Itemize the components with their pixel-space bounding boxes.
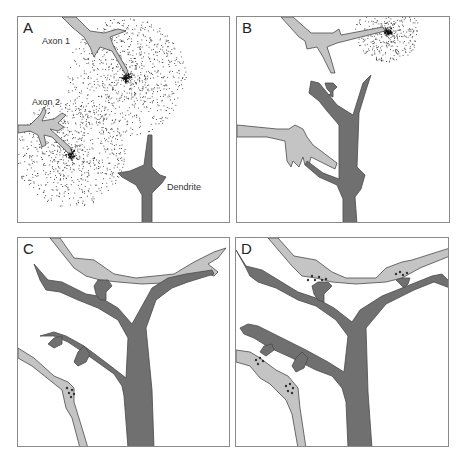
label-axon-1: Axon 1 — [42, 36, 70, 46]
panel-d-drawing — [236, 238, 449, 447]
panel-label-b: B — [242, 19, 252, 36]
label-axon-2: Axon 2 — [32, 97, 60, 107]
axon-1-shape — [281, 17, 385, 73]
spine-shape-side — [48, 336, 62, 348]
label-dendrite: Dendrite — [167, 182, 201, 192]
diffusion-cloud-axon2 — [18, 101, 126, 207]
panel-a: A Axon 1 Axon 2 Dendrite — [17, 16, 230, 223]
axon-1-shape — [62, 17, 128, 75]
panel-label-a: A — [23, 19, 33, 36]
panel-label-c: C — [23, 240, 34, 257]
dendrite-shape — [118, 135, 166, 223]
panel-c: C — [17, 237, 230, 447]
panel-b: B — [236, 16, 450, 223]
axon-2-shape — [18, 107, 72, 153]
axon-1-shape — [268, 238, 449, 284]
dendrite-shape — [241, 17, 371, 223]
panel-b-drawing — [237, 17, 450, 223]
panel-label-d: D — [241, 240, 252, 257]
panel-c-drawing — [18, 238, 230, 447]
diffusion-cloud-axon1 — [355, 17, 418, 63]
dendrite-shape — [34, 264, 214, 447]
spine-shape-side — [260, 344, 274, 356]
panel-d: D — [235, 237, 449, 447]
panel-a-drawing — [18, 17, 230, 223]
axon-2-shape — [237, 125, 337, 169]
